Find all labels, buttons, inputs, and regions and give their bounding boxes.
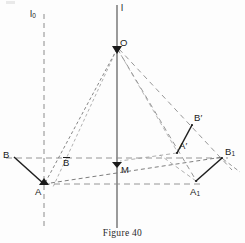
point-label-B1: B1 [225,147,235,158]
marker-point-Aprime [176,152,178,154]
ray-O-Bprime [119,49,232,170]
point-label-B: B [3,150,10,160]
figure-caption: Figure 40 [0,228,245,238]
point-label-A1: A1 [190,187,200,198]
point-label-Bbar: B [63,157,70,168]
point-label-A: A [35,187,42,197]
segment-B-A [14,157,44,184]
line-A1-Aprime [160,155,196,181]
ray-O-A [45,49,118,184]
ray-O-Bbar [45,49,124,188]
marker-point-Bprime [191,124,193,126]
point-label-Aprime: A′ [179,141,188,151]
figure-40-container: l0 l O B B A M A′ B′ A1 B1 Figure 40 [0,0,245,243]
segment-A1-B1 [196,158,222,181]
marker-point-A1 [195,180,197,182]
ray-O-Aprime-secondary [118,49,179,153]
point-label-Bprime: B′ [194,113,203,123]
line-Aprime-left-extension [120,153,177,161]
point-label-M: M [121,165,129,175]
axis-label-l0: l0 [30,9,36,20]
marker-point-B1 [221,157,223,159]
axis-label-l: l [121,3,123,13]
point-label-O: O [120,38,128,48]
